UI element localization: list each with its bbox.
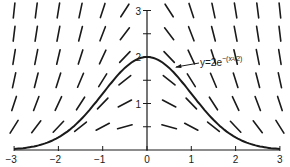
slope-mark bbox=[163, 76, 175, 85]
slope-mark bbox=[209, 97, 217, 110]
slope-mark bbox=[189, 27, 194, 41]
slope-mark bbox=[56, 73, 61, 87]
slope-mark bbox=[279, 26, 281, 41]
slope-mark bbox=[13, 26, 15, 41]
slope-mark bbox=[34, 73, 38, 88]
slope-mark bbox=[165, 4, 173, 17]
slope-mark bbox=[230, 121, 240, 132]
slope-mark bbox=[279, 50, 281, 65]
slope-mark bbox=[13, 3, 15, 18]
slope-mark bbox=[256, 50, 259, 65]
slope-mark bbox=[100, 27, 105, 41]
slope-mark bbox=[35, 3, 37, 18]
y-tick-label: 3 bbox=[135, 6, 141, 17]
slope-field-plot: −3−2−10123123 y=2e−(x²/2) bbox=[0, 0, 290, 167]
y-tick-label: 1 bbox=[135, 99, 141, 110]
slope-mark bbox=[79, 27, 83, 42]
slope-mark bbox=[119, 76, 131, 85]
slope-mark bbox=[13, 50, 15, 65]
x-tick-label: −2 bbox=[50, 154, 62, 165]
slope-mark bbox=[34, 97, 39, 111]
slope-mark bbox=[55, 97, 61, 111]
slope-mark bbox=[187, 74, 195, 87]
slope-mark bbox=[57, 3, 59, 18]
slope-mark bbox=[13, 73, 16, 88]
slope-mark bbox=[100, 3, 105, 17]
slope-field-diagram: −3−2−10123123 y=2e−(x²/2) bbox=[0, 0, 290, 167]
slope-mark bbox=[77, 97, 85, 110]
slope-mark bbox=[255, 97, 260, 111]
slope-mark bbox=[278, 73, 281, 88]
curve-label: y=2e−(x²/2) bbox=[175, 55, 242, 68]
slope-mark bbox=[121, 4, 129, 17]
x-tick-label: 3 bbox=[277, 154, 283, 165]
slope-mark bbox=[79, 3, 82, 18]
slope-mark bbox=[257, 26, 259, 41]
slope-mark bbox=[96, 123, 109, 130]
slope-mark bbox=[120, 28, 129, 40]
slope-mark bbox=[212, 27, 216, 42]
slope-mark bbox=[234, 26, 237, 41]
slope-mark bbox=[99, 74, 107, 87]
slope-mark bbox=[279, 3, 281, 18]
slope-mark bbox=[233, 73, 238, 87]
slope-mark bbox=[32, 121, 41, 133]
slope-mark bbox=[212, 3, 215, 18]
slope-mark bbox=[232, 97, 238, 111]
label-arrowhead-icon bbox=[175, 64, 182, 68]
slope-mark bbox=[35, 50, 38, 65]
slope-mark bbox=[164, 52, 174, 63]
slope-mark bbox=[162, 125, 177, 129]
slope-mark bbox=[118, 100, 131, 107]
slope-mark bbox=[12, 96, 17, 110]
slope-mark bbox=[163, 100, 176, 107]
slope-mark bbox=[276, 120, 284, 133]
slope-mark bbox=[78, 50, 83, 64]
slope-mark bbox=[189, 3, 194, 17]
slope-mark bbox=[234, 3, 236, 18]
slope-mark bbox=[256, 73, 260, 88]
slope-mark bbox=[57, 50, 60, 65]
x-tick-label: 1 bbox=[189, 154, 195, 165]
slope-mark bbox=[188, 50, 194, 64]
x-tick-label: −3 bbox=[5, 154, 17, 165]
slope-mark bbox=[257, 3, 259, 18]
slope-mark bbox=[120, 52, 130, 63]
slope-mark bbox=[78, 73, 84, 87]
slope-mark bbox=[278, 96, 283, 110]
x-tick-label: −1 bbox=[94, 154, 106, 165]
slope-mark bbox=[118, 125, 133, 129]
slope-mark bbox=[100, 50, 106, 64]
slope-mark bbox=[211, 73, 217, 87]
slope-mark bbox=[185, 123, 198, 130]
x-tick-label: 2 bbox=[233, 154, 239, 165]
slope-mark bbox=[165, 28, 174, 40]
slope-mark bbox=[10, 120, 18, 133]
slope-mark bbox=[253, 121, 262, 133]
x-tick-label: 0 bbox=[144, 154, 150, 165]
slope-mark bbox=[53, 121, 63, 132]
slope-mark bbox=[35, 26, 37, 41]
curve-label-text: y=2e−(x²/2) bbox=[200, 55, 242, 68]
slope-mark bbox=[57, 26, 60, 41]
